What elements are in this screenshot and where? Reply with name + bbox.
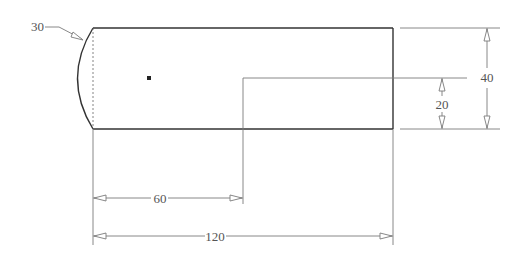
arrow-up-icon xyxy=(439,79,445,91)
dim-60-label: 60 xyxy=(154,191,167,206)
leader-arrow-icon xyxy=(71,32,83,40)
step-feature xyxy=(243,78,467,204)
technical-drawing: 40 20 60 120 30 xyxy=(0,0,527,265)
arrow-down-icon xyxy=(439,116,445,128)
dimension-60: 60 xyxy=(93,191,243,206)
center-point-marker xyxy=(147,76,151,80)
arrow-right-icon xyxy=(380,233,392,239)
extension-lines xyxy=(93,28,500,245)
dimension-120: 120 xyxy=(93,229,393,244)
dim-20-label: 20 xyxy=(436,97,449,112)
dim-40-label: 40 xyxy=(481,70,494,85)
dim-30-label: 30 xyxy=(31,19,44,34)
dimension-20: 20 xyxy=(436,78,449,129)
arrow-left-icon xyxy=(94,233,106,239)
part-outline xyxy=(78,28,394,129)
arrow-left-icon xyxy=(94,195,106,201)
dimension-30-radius: 30 xyxy=(31,19,83,40)
arrow-right-icon xyxy=(230,195,242,201)
arrow-down-icon xyxy=(484,116,490,128)
dimension-40: 40 xyxy=(481,28,494,129)
left-arc xyxy=(78,28,94,129)
dim-120-label: 120 xyxy=(205,229,225,244)
arrow-up-icon xyxy=(484,29,490,41)
